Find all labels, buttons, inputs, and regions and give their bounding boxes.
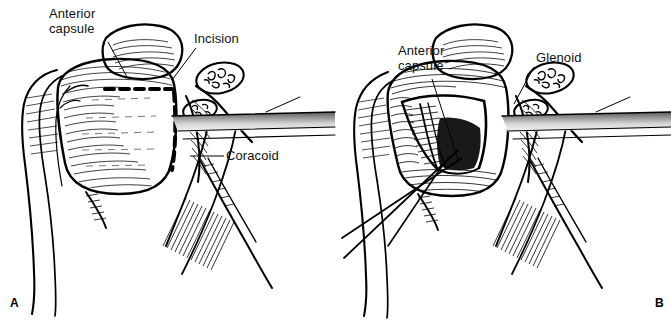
anterior-capsule-mass bbox=[57, 59, 176, 194]
leader-glenoid bbox=[514, 67, 534, 104]
panel-letter-b: B bbox=[655, 296, 664, 310]
axillary-pouch bbox=[418, 194, 438, 230]
label-anterior-capsule-a: Anterior capsule bbox=[49, 7, 95, 36]
acromion bbox=[433, 25, 513, 80]
acromion bbox=[103, 25, 183, 80]
axillary-pouch bbox=[86, 192, 106, 228]
label-incision-a: Incision bbox=[194, 32, 239, 47]
panel-b-artwork bbox=[336, 0, 671, 328]
label-anterior-capsule-b: Anterior capsule bbox=[398, 44, 444, 73]
figure-root: Anterior capsule Incision Coracoid A bbox=[0, 0, 671, 328]
panel-a: Anterior capsule Incision Coracoid A bbox=[0, 0, 335, 328]
label-coracoid-a: Coracoid bbox=[226, 149, 279, 164]
humerus-shaft bbox=[22, 70, 70, 316]
panel-a-artwork bbox=[0, 0, 335, 328]
label-glenoid-b: Glenoid bbox=[536, 51, 582, 66]
panel-b: Anterior capsule Glenoid B bbox=[336, 0, 671, 328]
panel-letter-a: A bbox=[10, 296, 19, 310]
bone-cross-section-upper bbox=[193, 58, 246, 97]
leader-incision bbox=[172, 48, 196, 80]
